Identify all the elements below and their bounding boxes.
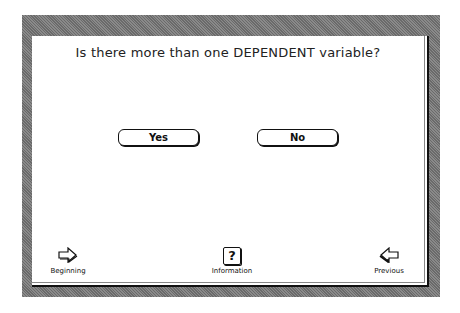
previous-label: Previous bbox=[367, 267, 411, 275]
question-mark-icon: ? bbox=[223, 247, 241, 265]
information-label: Information bbox=[204, 267, 260, 275]
question-text: Is there more than one DEPENDENT variabl… bbox=[32, 45, 424, 60]
question-card: Is there more than one DEPENDENT variabl… bbox=[32, 36, 425, 283]
information-button[interactable]: ? Information bbox=[204, 247, 260, 275]
beginning-button[interactable]: Beginning bbox=[46, 247, 90, 275]
right-arrow-icon bbox=[57, 247, 79, 263]
left-arrow-icon bbox=[378, 247, 400, 263]
beginning-label: Beginning bbox=[46, 267, 90, 275]
previous-button[interactable]: Previous bbox=[367, 247, 411, 275]
yes-button[interactable]: Yes bbox=[118, 129, 199, 146]
no-button[interactable]: No bbox=[257, 129, 338, 146]
